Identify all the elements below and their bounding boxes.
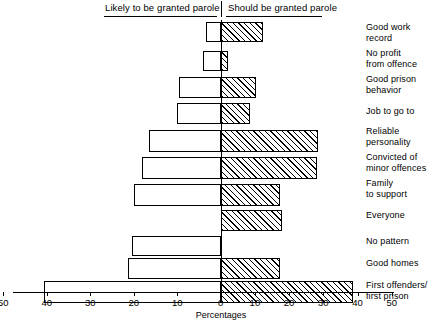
bar-should-be-granted (221, 103, 250, 124)
bar-likely-granted (179, 77, 221, 98)
category-label: Reliable personality (366, 126, 411, 147)
bar-should-be-granted (221, 210, 283, 231)
axis-tick (3, 292, 4, 296)
axis-tick-label-left-50: 50 (0, 297, 8, 308)
bar-likely-granted (132, 236, 221, 256)
axis-tick (289, 292, 290, 296)
category-label: Family to support (366, 178, 407, 199)
legend-underline-should (226, 16, 322, 17)
category-label: No pattern (366, 236, 409, 247)
bar-should-be-granted (221, 51, 229, 71)
bar-should-be-granted (221, 22, 263, 42)
axis-tick-label-right-20: 20 (284, 297, 295, 308)
legend-divider (221, 1, 222, 17)
axis-tick (90, 292, 91, 296)
category-label: Good prison behavior (366, 74, 416, 95)
category-label: Everyone (366, 210, 405, 221)
axis-tick (221, 292, 222, 296)
axis-tick-label-left-20: 20 (128, 297, 139, 308)
axis-tick-label-left-40: 40 (41, 297, 52, 308)
bar-should-be-granted (221, 258, 280, 279)
category-label: Good homes (366, 258, 419, 269)
axis-tick-label-right-10: 10 (250, 297, 261, 308)
axis-tick (47, 292, 48, 296)
axis-tick (177, 292, 178, 296)
axis-tick-label-left-10: 10 (172, 297, 183, 308)
category-label: Job to go to (366, 106, 414, 117)
category-label: Convicted of minor offences (366, 152, 426, 173)
axis-tick (255, 292, 256, 296)
parole-diverging-bar-chart: Likely to be granted parole Should be gr… (0, 0, 440, 328)
axis-tick (134, 292, 135, 296)
axis-tick-label-right-40: 40 (352, 297, 363, 308)
axis-tick (323, 292, 324, 296)
axis-tick (358, 292, 359, 296)
legend-label-likely: Likely to be granted parole (105, 2, 220, 13)
legend-label-should: Should be granted parole (228, 2, 337, 13)
bar-likely-granted (149, 130, 221, 152)
bar-likely-granted (128, 258, 220, 279)
axis-tick-label-right-30: 30 (318, 297, 329, 308)
category-label: Good work record (366, 22, 410, 43)
bar-likely-granted (134, 184, 221, 206)
x-axis-line (13, 292, 394, 293)
axis-tick-label-left-30: 30 (85, 297, 96, 308)
bar-likely-granted (203, 51, 220, 71)
bar-likely-granted (206, 22, 221, 42)
category-label: First offenders/ first prison (366, 280, 427, 301)
legend-underline-likely (104, 16, 217, 17)
axis-tick-label-zero: 0 (218, 297, 223, 308)
bar-should-be-granted (221, 77, 256, 98)
bar-likely-granted (142, 157, 220, 179)
bar-likely-granted (177, 103, 221, 124)
bar-should-be-granted (221, 130, 318, 152)
x-axis-title: Percentages (196, 310, 247, 320)
bar-should-be-granted (221, 157, 317, 179)
chart-legend: Likely to be granted parole Should be gr… (0, 1, 440, 19)
category-label: No profit from offence (366, 48, 417, 69)
bar-should-be-granted (221, 184, 280, 206)
